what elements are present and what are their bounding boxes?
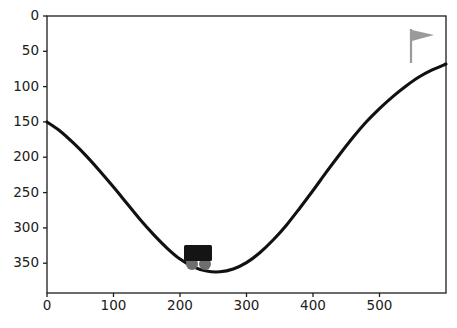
plot-canvas: 0 50 100 150 200 250 300 350 0 100 200 3… <box>0 0 457 328</box>
y-tick-label-50: 50 <box>22 42 39 58</box>
car-body-icon <box>184 245 212 261</box>
y-tick-label-250: 250 <box>13 184 39 200</box>
mountain-car-figure: 0 50 100 150 200 250 300 350 0 100 200 3… <box>0 0 457 328</box>
x-tick-label-200: 200 <box>167 297 193 313</box>
y-tick-labels: 0 50 100 150 200 250 300 350 <box>13 7 39 270</box>
x-tick-label-100: 100 <box>101 297 127 313</box>
y-tick-label-150: 150 <box>13 113 39 129</box>
y-tick-label-350: 350 <box>13 254 39 270</box>
plot-background <box>47 16 446 293</box>
y-tick-label-300: 300 <box>13 219 39 235</box>
y-tick-label-0: 0 <box>30 7 39 23</box>
x-tick-label-500: 500 <box>367 297 393 313</box>
x-tick-label-0: 0 <box>43 297 52 313</box>
y-tick-label-100: 100 <box>13 78 39 94</box>
x-tick-labels: 0 100 200 300 400 500 <box>43 297 393 313</box>
x-tick-label-400: 400 <box>300 297 326 313</box>
x-tick-label-300: 300 <box>234 297 260 313</box>
y-tick-label-200: 200 <box>13 148 39 164</box>
